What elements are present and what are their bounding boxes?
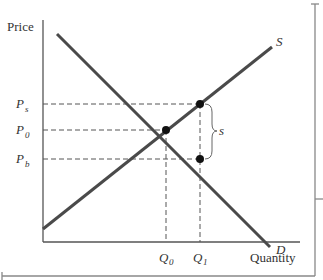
p0-label: P 0 xyxy=(15,122,30,140)
pb-label: P b xyxy=(15,151,30,169)
ps-label: P s xyxy=(15,96,29,114)
supply-curve xyxy=(43,47,272,229)
svg-text:b: b xyxy=(25,159,30,169)
demand-label: D xyxy=(275,242,286,257)
svg-text:0: 0 xyxy=(169,257,174,267)
svg-text:P: P xyxy=(15,96,24,111)
equilibrium-point xyxy=(162,126,170,134)
q0-label: Q 0 xyxy=(159,250,174,267)
x-axis-label: Quantity xyxy=(250,250,296,265)
svg-text:1: 1 xyxy=(203,257,208,267)
svg-text:P: P xyxy=(15,151,24,166)
supply-demand-diagram: Price Quantity S D s P s P 0 P b Q 0 Q 1 xyxy=(0,0,323,280)
subsidy-brace xyxy=(205,104,217,159)
y-axis-label: Price xyxy=(7,19,34,34)
svg-text:0: 0 xyxy=(25,130,30,140)
svg-text:Q: Q xyxy=(159,250,169,265)
svg-text:Q: Q xyxy=(193,250,203,265)
supply-label: S xyxy=(276,34,283,49)
svg-text:P: P xyxy=(15,122,24,137)
q1-label: Q 1 xyxy=(193,250,208,267)
demand-curve xyxy=(57,34,270,247)
svg-text:s: s xyxy=(25,104,29,114)
buyer-price-point xyxy=(196,155,204,163)
subsidy-label: s xyxy=(219,123,224,138)
seller-price-point xyxy=(196,100,204,108)
